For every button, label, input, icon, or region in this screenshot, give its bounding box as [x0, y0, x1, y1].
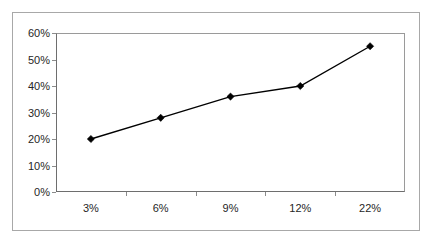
chart-container: 60% 50% 40% 30% 20% 10% 0% 3% 6% 9% 12% …: [0, 0, 431, 245]
data-point-marker: [227, 93, 234, 100]
data-point-marker: [157, 114, 164, 121]
data-point-marker: [367, 43, 374, 50]
data-point-marker: [297, 82, 304, 89]
data-point-marker: [87, 135, 94, 142]
series-layer: [0, 0, 431, 245]
